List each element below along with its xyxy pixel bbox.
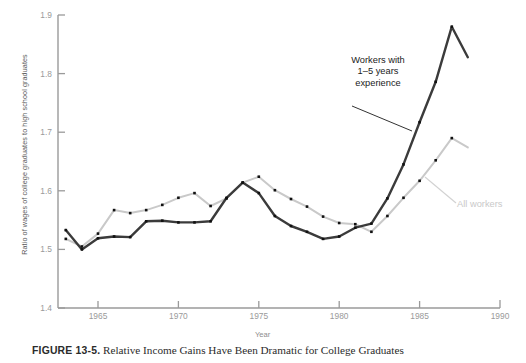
- y-axis-label: Ratio of wages of college graduates to h…: [20, 5, 29, 305]
- x-tick-1970: 1970: [158, 311, 198, 321]
- annotation-experienced-line1: Workers with: [326, 55, 430, 66]
- y-tick-1-7: 1.7: [26, 127, 52, 137]
- x-tick-1985: 1985: [400, 311, 440, 321]
- x-tick-1965: 1965: [78, 311, 118, 321]
- y-tick-1-8: 1.8: [26, 69, 52, 79]
- y-tick-1-4: 1.4: [26, 303, 52, 313]
- figure-caption: FIGURE 13-5. Relative Income Gains Have …: [32, 344, 404, 356]
- x-tick-1980: 1980: [319, 311, 359, 321]
- x-axis-label: Year: [255, 330, 270, 339]
- annotation-all-workers: All workers: [457, 199, 502, 210]
- x-tick-1975: 1975: [239, 311, 279, 321]
- y-tick-1-6: 1.6: [26, 186, 52, 196]
- y-tick-1-5: 1.5: [26, 244, 52, 254]
- annotation-experienced-line3: experience: [326, 78, 430, 89]
- figure-container: Ratio of wages of college graduates to h…: [0, 0, 526, 363]
- figure-caption-text: Relative Income Gains Have Been Dramatic…: [103, 344, 404, 356]
- annotation-experienced: Workers with 1–5 years experience: [326, 55, 430, 89]
- chart-plot-area: [0, 0, 526, 340]
- figure-caption-label: FIGURE 13-5.: [32, 345, 100, 356]
- annotation-experienced-line2: 1–5 years: [326, 66, 430, 77]
- y-tick-1-9: 1.9: [26, 10, 52, 20]
- x-tick-1990: 1990: [480, 311, 520, 321]
